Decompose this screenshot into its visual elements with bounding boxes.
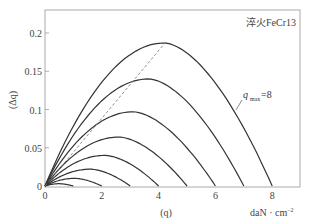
curve-q-max-2 <box>45 178 102 186</box>
x-axis-label: (q) <box>160 207 172 219</box>
chart-title: 淬火FeCr13 <box>246 16 296 28</box>
y-tick-label: 0.15 <box>25 66 43 77</box>
x-tick-label: 0 <box>43 190 48 201</box>
curves <box>45 43 272 186</box>
y-axis-label: (Δq) <box>7 91 19 109</box>
chart: 00.050.10.150.2 02468 淬火FeCr13 q max =8 … <box>0 0 309 224</box>
peak-locus-dashed-line <box>45 42 166 186</box>
x-tick-label: 4 <box>156 190 161 201</box>
ann-q: q <box>243 89 248 100</box>
y-tick-label: 0 <box>37 181 42 192</box>
qmax-annotation: q max =8 <box>236 89 272 110</box>
ann-sub: max <box>250 96 260 102</box>
curve-q-max-6 <box>45 112 215 186</box>
y-tick-label: 0.05 <box>25 143 43 154</box>
curve-q-max-8 <box>45 43 272 186</box>
curve-q-max-7 <box>45 79 244 186</box>
x-tick-label: 2 <box>99 190 104 201</box>
y-tick-label: 0.1 <box>30 105 43 116</box>
x-tick-label: 8 <box>270 190 275 201</box>
x-tick-label: 6 <box>213 190 218 201</box>
x-axis-ticks: 02468 <box>43 190 275 201</box>
x-axis-unit: daN · cm−2 <box>250 207 294 218</box>
ann-value: =8 <box>261 89 272 100</box>
y-tick-label: 0.2 <box>30 28 43 39</box>
